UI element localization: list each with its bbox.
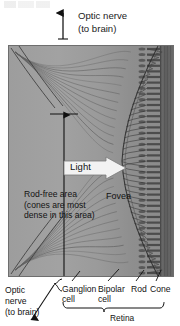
bottom-label-block: Optic nerve (to brain) Ganglion cell Bip… (0, 275, 180, 326)
top-optic-nerve-line1: Optic nerve (78, 10, 127, 21)
top-optic-nerve-callout: Optic nerve (to brain) (54, 8, 180, 46)
ganglion-cell-line1: Ganglion (62, 284, 96, 294)
fovea-label: Fovea (106, 191, 131, 202)
light-label: Light (70, 161, 91, 172)
bipolar-cell-line1: Bipolar (98, 284, 125, 294)
rod-label: Rod (131, 284, 147, 294)
bottom-optic-line3: (to brain) (5, 307, 39, 317)
rod-free-area-caption: Rod-free area (cones are most dense in t… (24, 189, 95, 221)
cone-label: Cone (150, 284, 171, 294)
cropped-caption-remnant (4, 1, 50, 8)
rod-free-line1: Rod-free area (24, 189, 95, 200)
bottom-optic-line1: Optic (5, 285, 25, 295)
top-optic-nerve-line2: (to brain) (78, 23, 116, 34)
ganglion-cell-line2: cell (62, 294, 75, 304)
retina-diagram-panel: Light Rod-free area (cones are most dens… (8, 45, 174, 277)
bipolar-cell-line2: cell (98, 294, 111, 304)
light-direction-arrow: Light (64, 157, 126, 179)
rod-free-line2: (cones are most (24, 200, 95, 211)
retina-label: Retina (110, 313, 134, 323)
left-brace-icon (54, 279, 62, 291)
curly-brace-icon (63, 302, 164, 312)
figure-root: Optic nerve (to brain) (0, 0, 180, 326)
bottom-optic-line2: nerve (5, 296, 27, 306)
rod-free-line3: dense in this area) (24, 210, 95, 221)
bottom-leader-lines (0, 275, 180, 326)
